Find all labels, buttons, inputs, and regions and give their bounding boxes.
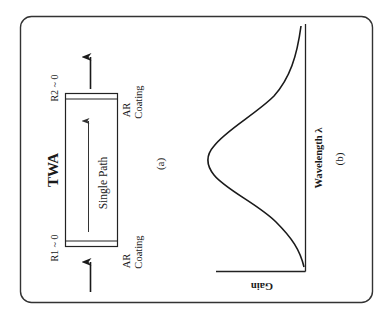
twa-diagram: TWA Single Path R2 ~ 0 R1 ~ 0 AR Coating… [0,0,388,323]
r1-reflectivity-label: R1 ~ 0 [49,234,60,261]
wavelength-axis-label: Wavelength λ [313,127,324,189]
panel-b-caption: (b) [333,152,346,165]
panel-b: Wavelength λ (b) Gain [208,24,346,292]
ar-coating-right-label-line2: Coating [133,85,144,119]
gain-curve [208,26,304,267]
panel-a: TWA Single Path R2 ~ 0 R1 ~ 0 AR Coating… [45,57,167,292]
ar-coating-left-label-line1: AR [121,254,132,269]
panel-a-caption: (a) [154,158,167,171]
amplifier-waveguide [66,94,118,247]
ar-coating-right-label-line1: AR [121,103,132,118]
single-path-label: Single Path [97,156,110,209]
gain-axis-label: Gain [251,281,273,292]
ar-coating-left-label-line2: Coating [133,235,144,269]
r2-reflectivity-label: R2 ~ 0 [49,74,60,101]
panel-a-title: TWA [45,153,61,187]
